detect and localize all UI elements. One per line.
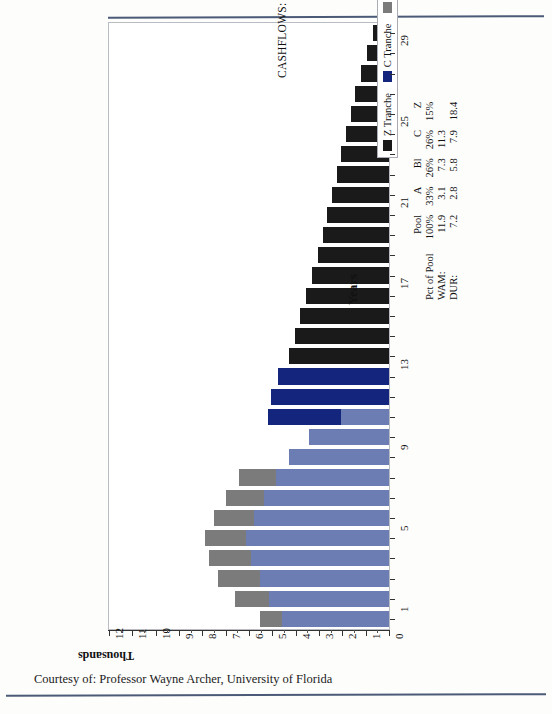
bar-segment-a-tranche xyxy=(289,449,389,465)
stats-col-header: A xyxy=(412,178,424,206)
value-tick-label-11: 11 xyxy=(136,628,148,639)
category-tick-label-29: 29 xyxy=(398,35,410,46)
bar-group-year-12 xyxy=(271,389,389,405)
bar-segment-z-tranche xyxy=(295,328,390,344)
category-tick-label-21: 21 xyxy=(398,197,410,208)
bar-segment-a-tranche xyxy=(269,591,389,607)
category-tick-21 xyxy=(390,215,395,216)
bar-group-year-16 xyxy=(300,308,389,324)
bar-group-year-21 xyxy=(327,207,389,223)
value-minor-tick xyxy=(167,630,168,633)
bar-segment-b-tranche xyxy=(268,409,342,425)
category-tick-23 xyxy=(390,175,395,176)
bar-segment-c-tranche xyxy=(239,469,276,485)
category-tick-12 xyxy=(390,397,395,398)
bar-group-year-1 xyxy=(260,611,389,627)
bar-group-year-19 xyxy=(318,247,389,263)
bar-segment-a-tranche xyxy=(251,550,389,566)
legend-item-b-tranche: B Tranche xyxy=(382,0,393,13)
value-tick-3 xyxy=(319,630,320,636)
value-minor-tick xyxy=(191,630,192,633)
bar-segment-c-tranche xyxy=(218,570,260,586)
stats-row: DUR:7.22.85.87.918.4 xyxy=(448,93,460,300)
category-tick-2 xyxy=(390,599,395,600)
bar-group-year-9 xyxy=(289,449,389,465)
value-minor-tick xyxy=(214,630,215,633)
value-tick-label-6: 6 xyxy=(253,634,265,640)
stats-cell: 11.3 xyxy=(436,121,448,149)
bar-segment-b-tranche xyxy=(271,389,389,405)
stats-cell: 33% xyxy=(424,178,436,206)
bar-group-year-10 xyxy=(309,429,390,445)
bar-segment-a-tranche xyxy=(254,510,389,526)
stats-cell: 2.8 xyxy=(448,178,460,206)
chart-title-block: CASHFLOWS: SEQUENTIAL PAY TRANCHES PSA: … xyxy=(276,0,301,78)
category-tick-18 xyxy=(390,276,395,277)
value-tick-label-0: 0 xyxy=(393,634,405,640)
bar-segment-c-tranche xyxy=(209,550,251,566)
bar-segment-a-tranche xyxy=(282,611,389,627)
category-tick-25 xyxy=(390,134,395,135)
category-tick-4 xyxy=(390,558,395,559)
bar-segment-a-tranche xyxy=(264,490,389,506)
value-tick-8 xyxy=(202,630,203,636)
value-tick-label-7: 7 xyxy=(230,634,242,640)
stats-col-header: Pool xyxy=(412,206,424,240)
value-minor-tick xyxy=(307,630,308,633)
category-tick-5 xyxy=(390,538,395,539)
category-tick-label-13: 13 xyxy=(398,359,410,370)
value-tick-7 xyxy=(226,630,227,636)
value-tick-9 xyxy=(179,630,180,636)
bar-segment-z-tranche xyxy=(300,308,389,324)
stats-cell: 26% xyxy=(424,121,436,149)
chart-plot-area xyxy=(108,22,390,630)
category-tick-15 xyxy=(390,336,395,337)
value-tick-label-8: 8 xyxy=(206,634,218,640)
value-tick-label-1: 1 xyxy=(370,634,382,640)
stats-col-header: C xyxy=(412,121,424,149)
value-minor-tick xyxy=(237,630,238,633)
top-divider-rule xyxy=(108,15,544,19)
bar-segment-c-tranche xyxy=(214,510,254,526)
stacked-bar-series xyxy=(109,23,389,629)
bar-group-year-8 xyxy=(239,469,389,485)
category-tick-label-5: 5 xyxy=(398,526,410,532)
category-tick-30 xyxy=(390,33,395,34)
value-tick-5 xyxy=(272,630,273,636)
bar-segment-c-tranche xyxy=(205,530,246,546)
category-tick-29 xyxy=(390,53,395,54)
stats-cell: 100% xyxy=(424,206,436,240)
category-tick-3 xyxy=(390,579,395,580)
bar-group-year-4 xyxy=(209,550,389,566)
category-tick-10 xyxy=(390,437,395,438)
page-canvas: CASHFLOWS: SEQUENTIAL PAY TRANCHES PSA: … xyxy=(0,0,552,714)
value-minor-tick xyxy=(261,630,262,633)
bar-segment-a-tranche xyxy=(246,530,390,546)
stats-corner-cell xyxy=(412,239,424,300)
bar-segment-c-tranche xyxy=(260,611,282,627)
stats-row: WAM:11.93.17.311.3 xyxy=(436,93,448,300)
category-tick-label-1: 1 xyxy=(398,606,410,612)
stats-cell: 15% xyxy=(424,93,436,121)
category-tick-28 xyxy=(390,74,395,75)
category-tick-14 xyxy=(390,356,395,357)
value-tick-2 xyxy=(342,630,343,636)
bar-segment-b-tranche xyxy=(278,368,389,384)
category-tick-27 xyxy=(390,94,395,95)
bar-segment-z-tranche xyxy=(318,247,389,263)
bar-segment-z-tranche xyxy=(327,207,389,223)
bar-group-year-15 xyxy=(295,328,390,344)
bar-segment-c-tranche xyxy=(226,490,265,506)
value-tick-1 xyxy=(366,630,367,636)
value-tick-12 xyxy=(109,630,110,636)
tranche-stats-table: PoolABlCZPct of Pool100%33%26%26%15%WAM:… xyxy=(412,93,460,300)
bar-segment-z-tranche xyxy=(289,348,389,364)
value-tick-11 xyxy=(132,630,133,636)
value-tick-6 xyxy=(249,630,250,636)
bar-group-year-14 xyxy=(289,348,389,364)
bar-group-year-3 xyxy=(218,570,390,586)
bar-group-year-23 xyxy=(337,166,390,182)
bar-group-year-7 xyxy=(226,490,389,506)
stats-row-label: DUR: xyxy=(448,239,460,300)
stats-cell xyxy=(436,93,448,121)
